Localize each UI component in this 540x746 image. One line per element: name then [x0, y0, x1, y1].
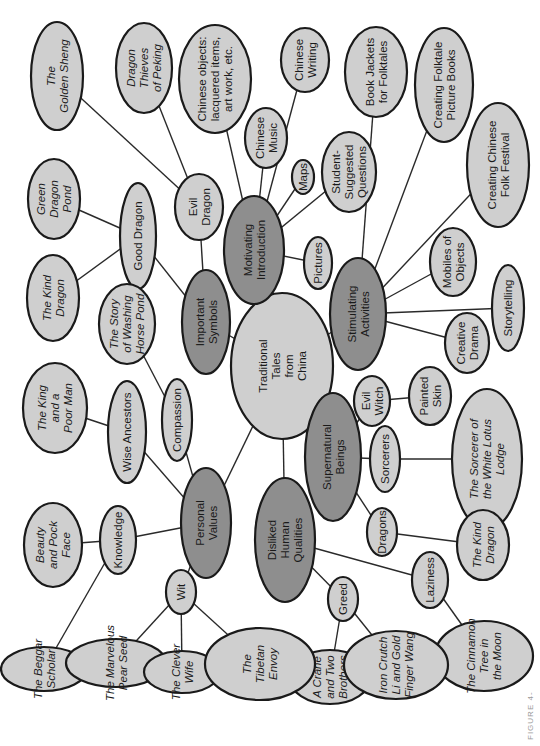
node-thieves: DragonThievesof Peking — [116, 23, 172, 113]
node-evilwitch: EvilWitch — [354, 376, 390, 426]
node-storytelling: Storytelling — [492, 265, 524, 351]
node-label: Horse Pond — [134, 293, 146, 354]
node-greenpond: GreenDragonPond — [28, 159, 80, 239]
node-label: Supernatural — [321, 424, 333, 490]
node-label: The — [45, 66, 57, 86]
node-beauty: Beautyand PockFace — [24, 503, 82, 587]
node-label: The Marvelous — [104, 625, 116, 701]
node-label: Knowledge — [112, 512, 124, 569]
node-label: Skin — [431, 385, 443, 407]
figure-caption: FIGURE 4- — [526, 691, 535, 740]
node-label: and Pock — [47, 520, 59, 569]
node-label: Chinese objects: — [196, 36, 208, 121]
node-label: Creating Folktale — [432, 42, 444, 129]
node-label: Qualities — [292, 517, 304, 562]
node-label: Dragons — [376, 510, 388, 554]
node-wise: Wise Ancestors — [108, 381, 146, 483]
node-label: Witch — [373, 387, 385, 416]
node-kingpoor: The Kingand aPoor Man — [23, 363, 87, 453]
node-label: lacquered items, — [209, 37, 221, 121]
node-knowledge: Knowledge — [100, 506, 136, 574]
node-label: Storytelling — [502, 280, 514, 337]
node-maps: Maps — [292, 160, 314, 194]
node-label: Compassion — [171, 388, 183, 452]
node-label: The King — [36, 384, 48, 431]
node-label: Values — [207, 506, 219, 541]
node-label: Golden Sheng — [58, 39, 70, 113]
node-label: Mobiles of — [441, 235, 453, 288]
node-label: art work, etc. — [222, 46, 234, 112]
node-personal: PersonalValues — [181, 468, 231, 578]
node-label: Dragon — [484, 526, 496, 564]
node-label: Li and Gold — [390, 635, 402, 694]
node-label: Pictures — [312, 242, 324, 284]
node-label: Evil — [187, 198, 199, 217]
node-whitelotus: The Sorcerer ofthe White LotusLodge — [452, 389, 522, 529]
node-label: Drama — [468, 325, 480, 360]
node-creatingbooks: Creating FolktalePicture Books — [415, 28, 473, 142]
node-compassion: Compassion — [162, 379, 192, 461]
node-label: Tibetan — [254, 645, 266, 683]
node-washing: The Storyof WashingHorse Pond — [99, 284, 155, 364]
node-label: Envoy — [267, 647, 279, 680]
node-music: ChineseMusic — [245, 108, 287, 168]
node-label: Scholar — [45, 648, 57, 688]
node-label: Stimulating — [346, 286, 358, 343]
node-label: Beauty — [34, 526, 46, 563]
node-goodd: Good Dragon — [120, 183, 156, 289]
node-label: The Kind — [41, 274, 53, 321]
node-label: Symbols — [207, 300, 219, 344]
node-label: Evil — [360, 392, 372, 411]
node-drama: CreativeDrama — [445, 313, 489, 373]
node-label: Folk Festival — [499, 133, 511, 198]
node-label: Wise Ancestors — [121, 392, 133, 471]
node-label: Dragon — [200, 188, 212, 226]
node-label: Dragon — [125, 49, 137, 87]
node-festival: Creating ChineseFolk Festival — [467, 103, 529, 227]
node-disliked: DislikedHumanQualities — [255, 478, 315, 602]
node-greed: Greed — [328, 577, 358, 621]
node-jackets: Book Jacketsfor Folktales — [345, 27, 407, 117]
node-label: Traditional — [257, 339, 269, 392]
node-kinddragon1: The KindDragon — [27, 255, 79, 341]
node-label: of Peking — [151, 43, 163, 92]
node-label: Wife — [183, 661, 195, 684]
node-label: Green — [35, 183, 47, 215]
node-label: Objects — [454, 242, 466, 281]
node-important: ImportantSymbols — [182, 270, 230, 374]
node-label: The — [241, 654, 253, 674]
node-label: Finger Wang — [403, 632, 415, 698]
node-label: Poor Man — [62, 383, 74, 433]
node-kinddragon2: The KindDragon — [457, 510, 509, 580]
node-label: Wit — [175, 583, 187, 600]
node-label: The Clever — [170, 643, 182, 700]
node-label: Important — [194, 297, 206, 346]
node-label: Disliked — [266, 520, 278, 560]
node-golden: TheGolden Sheng — [31, 22, 83, 130]
node-label: Picture Books — [445, 49, 457, 120]
node-label: Student- — [330, 150, 342, 194]
node-label: Iron Crutch — [377, 637, 389, 694]
node-label: China — [296, 350, 308, 381]
node-label: Lodge — [494, 443, 506, 475]
node-writing: ChineseWriting — [281, 28, 329, 92]
node-label: Pond — [61, 185, 73, 212]
node-label: Thieves — [138, 48, 150, 89]
node-label: Suggested — [343, 145, 355, 200]
node-label: and Two — [324, 655, 336, 699]
node-label: Pear Seed — [117, 635, 129, 690]
node-label: Tales — [270, 352, 282, 379]
node-label: Dragon — [48, 180, 60, 218]
node-pictures: Pictures — [304, 237, 332, 289]
node-label: Sorcerers — [379, 434, 391, 484]
node-tibetan: TheTibetanEnvoy — [205, 628, 315, 700]
node-label: Questions — [356, 146, 368, 198]
node-supernatural: SupernaturalBeings — [305, 393, 361, 521]
node-label: Music — [267, 123, 279, 153]
node-ironcrutch: Iron CrutchLi and GoldFinger Wang — [344, 631, 448, 699]
node-label: Dragon — [54, 279, 66, 317]
node-wit: Wit — [166, 570, 196, 614]
node-cinnamon: The CinnamonTree inthe Moon — [435, 618, 533, 693]
node-label: The Story — [108, 298, 120, 349]
node-label: Laziness — [424, 557, 436, 603]
